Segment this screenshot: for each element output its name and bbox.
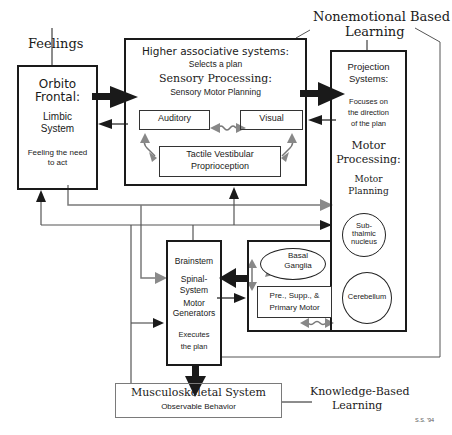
motor-processing-2: Processing: bbox=[330, 154, 407, 166]
knowledge-label-line2: Learning bbox=[332, 400, 382, 412]
motor-gen-label-1: Motor bbox=[166, 299, 222, 308]
musculo-sub: Observable Behavior bbox=[115, 403, 282, 411]
limbic-label-2: System bbox=[17, 124, 98, 135]
motor-gen-label-2: Generators bbox=[164, 309, 224, 318]
premotor-label-2: Primary Motor bbox=[257, 304, 332, 312]
basal-label-1: Basal bbox=[268, 252, 328, 260]
tactile-label-1: Tactile Vestibular bbox=[159, 150, 281, 159]
projection-title-2: Systems: bbox=[330, 74, 407, 84]
auditory-label: Auditory bbox=[139, 114, 210, 123]
orbito-title-1: Orbito bbox=[17, 78, 98, 91]
higher-title: Higher associative systems: bbox=[124, 46, 307, 57]
subthalamic-label-3: nucleus bbox=[342, 238, 386, 246]
knowledge-label-line1: Knowledge-Based bbox=[310, 386, 410, 398]
spinal-label-2: System bbox=[166, 286, 222, 295]
cerebellum-label: Cerebellum bbox=[340, 293, 394, 301]
sensory-processing-sub: Sensory Motor Planning bbox=[124, 88, 307, 97]
musculo-title: Musculoskeletal System bbox=[115, 387, 282, 399]
executes-label-2: the plan bbox=[166, 343, 222, 351]
limbic-label-1: Limbic bbox=[17, 112, 98, 123]
projection-desc-1: Focuses on bbox=[330, 98, 407, 106]
premotor-label-1: Pre., Supp., & bbox=[257, 292, 332, 300]
visual-label: Visual bbox=[240, 114, 303, 123]
spinal-label-1: Spinal- bbox=[166, 275, 222, 284]
motor-box-top-edge bbox=[247, 240, 332, 242]
higher-sub: Selects a plan bbox=[124, 60, 307, 69]
signature: S.S. '94 bbox=[415, 418, 434, 424]
sensory-processing-title: Sensory Processing: bbox=[124, 73, 307, 85]
orbito-desc-2: to act bbox=[17, 159, 98, 167]
orbito-title-2: Frontal: bbox=[17, 91, 98, 104]
nonemotional-label-line1: Nonemotional Based bbox=[313, 10, 450, 24]
brainstem-title: Brainstem bbox=[166, 257, 222, 266]
basal-label-2: Ganglia bbox=[268, 262, 328, 270]
orbito-desc-1: Feeling the need bbox=[17, 149, 98, 157]
motor-planning-2: Planning bbox=[330, 187, 407, 196]
projection-desc-3: of the plan bbox=[330, 120, 407, 128]
feelings-label: Feelings bbox=[28, 37, 83, 51]
tactile-label-2: Proprioception bbox=[159, 162, 281, 171]
nonemotional-label-line2: Learning bbox=[345, 25, 405, 39]
motor-processing-1: Motor bbox=[330, 140, 407, 152]
projection-title-1: Projection bbox=[330, 62, 407, 72]
executes-label-1: Executes bbox=[166, 331, 222, 339]
motor-planning-1: Motor bbox=[330, 175, 407, 184]
projection-desc-2: the direction bbox=[330, 109, 407, 117]
